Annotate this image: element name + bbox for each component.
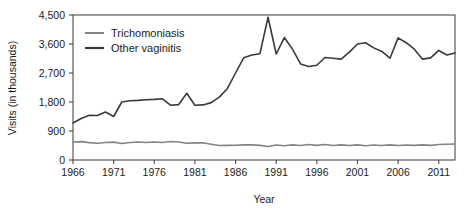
x-tick-label: 1971 (102, 166, 126, 178)
y-tick-label: 4,500 (39, 9, 65, 21)
y-tick-label: 900 (47, 125, 65, 137)
x-axis-title: Year (253, 193, 275, 205)
legend-label: Other vaginitis (111, 42, 182, 54)
chart-figure: 09001,8002,7003,6004,500 196619711976198… (0, 0, 469, 211)
x-tick-label: 1981 (183, 166, 207, 178)
legend-label: Trichomoniasis (111, 27, 185, 39)
y-tick-label: 1,800 (39, 96, 65, 108)
y-tick-label: 0 (59, 154, 65, 166)
y-tick-label: 3,600 (39, 38, 65, 50)
x-tick-label: 2006 (386, 166, 410, 178)
x-tick-label: 2001 (346, 166, 370, 178)
x-tick-label: 1991 (265, 166, 289, 178)
y-tick-label: 2,700 (39, 67, 65, 79)
x-axis-ticks: 1966197119761981198619911996200120062011 (61, 160, 450, 178)
x-tick-label: 1966 (61, 166, 85, 178)
x-tick-label: 1996 (305, 166, 329, 178)
x-tick-label: 2011 (427, 166, 450, 178)
x-tick-label: 1986 (224, 166, 248, 178)
y-axis-ticks: 09001,8002,7003,6004,500 (39, 9, 73, 166)
y-axis-title: Visits (in thousands) (6, 41, 18, 135)
line-chart-svg: 09001,8002,7003,6004,500 196619711976198… (0, 0, 469, 211)
x-tick-label: 1976 (143, 166, 167, 178)
